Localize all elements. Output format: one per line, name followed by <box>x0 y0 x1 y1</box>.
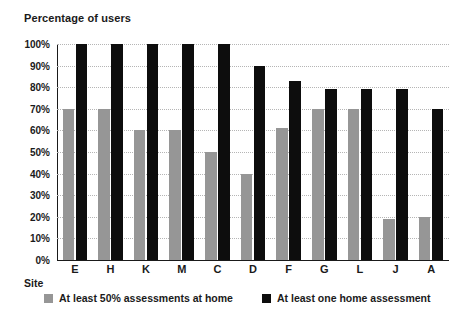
bar-C-series-2 <box>218 44 230 260</box>
legend-swatch-icon <box>44 294 53 303</box>
y-axis-tick-label: 90% <box>8 60 50 71</box>
chart-legend: At least 50% assessments at homeAt least… <box>44 293 454 307</box>
bar-J-series-2 <box>396 89 408 260</box>
bar-L-series-2 <box>361 89 373 260</box>
x-axis-label-F: F <box>285 263 292 275</box>
x-axis-category-labels: EHKMCDFGLJA <box>57 263 449 279</box>
legend-swatch-icon <box>262 294 271 303</box>
bar-K-series-1 <box>134 130 146 260</box>
bar-E-series-2 <box>76 44 88 260</box>
y-axis-tick-label: 80% <box>8 82 50 93</box>
chart-title: Percentage of users <box>24 12 131 24</box>
y-axis-tick-label: 50% <box>8 147 50 158</box>
bar-M-series-1 <box>169 130 181 260</box>
y-axis-tick-label: 40% <box>8 168 50 179</box>
x-axis-label-G: G <box>320 263 329 275</box>
legend-item-1[interactable]: At least 50% assessments at home <box>44 293 233 304</box>
y-axis-tick-label: 70% <box>8 103 50 114</box>
x-axis-label-A: A <box>427 263 435 275</box>
x-axis-label-J: J <box>392 263 398 275</box>
axis-baseline <box>57 260 449 261</box>
x-axis-label-L: L <box>357 263 364 275</box>
bar-A-series-1 <box>419 217 431 260</box>
bar-C-series-1 <box>205 152 217 260</box>
x-axis-label-M: M <box>177 263 186 275</box>
x-axis-label-C: C <box>213 263 221 275</box>
y-axis-tick-label: 20% <box>8 211 50 222</box>
bar-J-series-1 <box>383 219 395 260</box>
bar-F-series-1 <box>276 128 288 260</box>
legend-label: At least 50% assessments at home <box>59 293 233 304</box>
x-axis-title: Site <box>24 277 43 289</box>
y-axis-tick-label: 30% <box>8 190 50 201</box>
bar-E-series-1 <box>63 109 75 260</box>
y-axis-tick-label: 100% <box>8 39 50 50</box>
x-axis-label-H: H <box>106 263 114 275</box>
legend-label: At least one home assessment <box>277 293 430 304</box>
bar-M-series-2 <box>182 44 194 260</box>
bar-K-series-2 <box>147 44 159 260</box>
bar-H-series-2 <box>111 44 123 260</box>
x-axis-label-K: K <box>142 263 150 275</box>
y-axis-tick-label: 60% <box>8 125 50 136</box>
bar-L-series-1 <box>348 109 360 260</box>
plot-area <box>57 44 449 260</box>
x-axis-label-E: E <box>71 263 78 275</box>
bar-H-series-1 <box>98 109 110 260</box>
bar-D-series-2 <box>254 66 266 260</box>
bar-G-series-2 <box>325 89 337 260</box>
bar-A-series-2 <box>432 109 444 260</box>
bar-D-series-1 <box>241 174 253 260</box>
x-axis-label-D: D <box>249 263 257 275</box>
bar-F-series-2 <box>289 81 301 260</box>
bar-G-series-1 <box>312 109 324 260</box>
bar-chart: Percentage of users 0%10%20%30%40%50%60%… <box>0 0 464 310</box>
y-axis-tick-label: 0% <box>8 255 50 266</box>
y-axis-tick-label: 10% <box>8 233 50 244</box>
legend-item-2[interactable]: At least one home assessment <box>262 293 430 304</box>
